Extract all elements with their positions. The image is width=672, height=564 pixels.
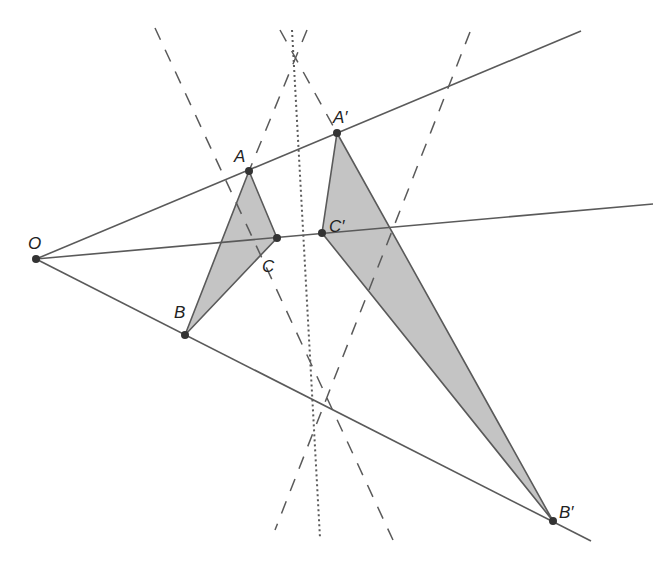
label-B-prime: B′ bbox=[559, 503, 574, 522]
dashed-line-2 bbox=[275, 32, 470, 530]
point-A bbox=[245, 167, 253, 175]
point-O bbox=[32, 255, 40, 263]
dashed-line-1 bbox=[155, 28, 393, 540]
point-A1 bbox=[333, 129, 341, 137]
label-A: A bbox=[233, 147, 245, 166]
points bbox=[32, 129, 557, 525]
homothety-diagram: O A B C A′ B′ C′ bbox=[0, 0, 672, 564]
point-C bbox=[273, 234, 281, 242]
point-labels: O A B C A′ B′ C′ bbox=[28, 108, 574, 522]
ray-OA bbox=[36, 31, 581, 259]
triangle-ABC bbox=[185, 171, 277, 335]
label-C-prime: C′ bbox=[329, 217, 345, 236]
point-B1 bbox=[549, 517, 557, 525]
label-O: O bbox=[28, 234, 41, 253]
label-B: B bbox=[174, 303, 185, 322]
label-C: C bbox=[262, 257, 275, 276]
triangle-fills bbox=[185, 133, 553, 521]
label-A-prime: A′ bbox=[332, 108, 348, 127]
dashed-line-4 bbox=[280, 30, 337, 133]
dotted-axis-line bbox=[292, 30, 320, 538]
ray-OB bbox=[36, 259, 591, 541]
point-C1 bbox=[318, 229, 326, 237]
dashed-construction-lines bbox=[155, 28, 470, 540]
point-B bbox=[181, 331, 189, 339]
